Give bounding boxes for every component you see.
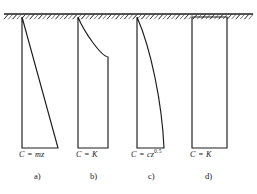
equation-base-a: C = mz xyxy=(19,150,44,159)
soil-profile-diagram xyxy=(0,0,257,194)
panel-d-profile xyxy=(192,17,227,148)
profile-outline-c xyxy=(137,17,164,148)
panel-caption-b: b) xyxy=(90,172,97,181)
panel-b-profile xyxy=(78,17,108,148)
panel-caption-a: a) xyxy=(34,172,41,181)
panel-caption-c: c) xyxy=(148,172,155,181)
figure-container: C = mz C = K C = cz0.5 C = K a) b) c) d) xyxy=(0,0,257,194)
profile-outline-b xyxy=(78,17,108,148)
equation-label-a: C = mz xyxy=(19,151,44,159)
profile-outline-d xyxy=(192,17,227,148)
panel-a-profile xyxy=(22,17,58,148)
equation-label-c: C = cz0.5 xyxy=(131,151,162,159)
equation-base-c: C = cz xyxy=(131,150,154,159)
equation-label-d: C = K xyxy=(190,151,212,159)
equation-base-b: C = K xyxy=(76,150,98,159)
profile-outline-a xyxy=(22,17,58,148)
panel-caption-d: d) xyxy=(205,172,212,181)
equation-base-d: C = K xyxy=(190,150,212,159)
equation-label-b: C = K xyxy=(76,151,98,159)
panel-c-profile xyxy=(137,17,164,148)
equation-exponent-c: 0.5 xyxy=(154,148,162,154)
